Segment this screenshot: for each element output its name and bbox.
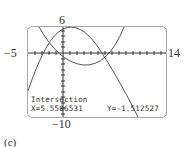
y-readout: Y=-1.512527 xyxy=(107,105,159,113)
xmin-label: −5 xyxy=(4,47,17,59)
figure-caption: (c) xyxy=(4,136,16,147)
graph-screen: Intersection X=5.5586531 Y=-1.512527 xyxy=(27,26,167,118)
x-readout: X=5.5586531 xyxy=(31,105,83,113)
intersection-label: Intersection xyxy=(31,96,88,104)
ymax-label: 6 xyxy=(59,14,65,26)
ymin-label: −10 xyxy=(52,118,71,130)
xmax-label: 14 xyxy=(168,47,180,59)
curve-upward-parabola xyxy=(38,27,124,65)
